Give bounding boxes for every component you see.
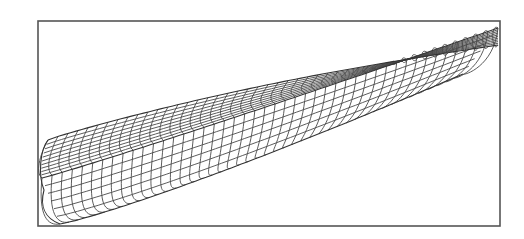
- hull-section-lines: [39, 27, 498, 224]
- lower-waterline: [54, 59, 475, 209]
- waterline: [41, 33, 498, 168]
- hull-waterlines: [41, 30, 498, 217]
- waterline: [47, 43, 499, 144]
- sheer-line: [42, 28, 498, 178]
- lower-waterline: [48, 43, 486, 193]
- lower-waterline: [51, 51, 481, 201]
- section-line-lower: [41, 178, 60, 224]
- ship-hull-wireframe-figure: [0, 0, 524, 239]
